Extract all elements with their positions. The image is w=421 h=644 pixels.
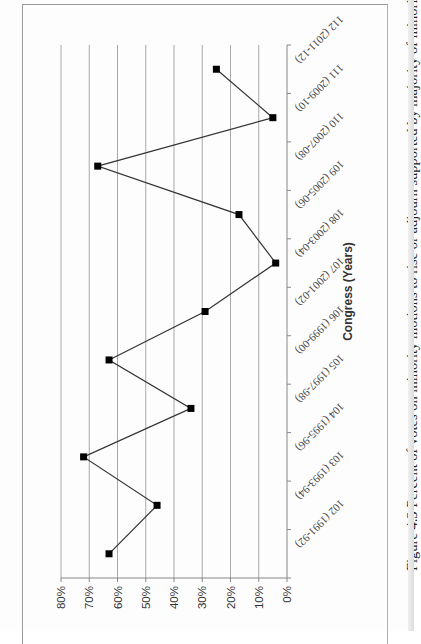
value-tick-label: 40% (168, 586, 180, 609)
data-point-marker (187, 405, 194, 412)
category-label: 111 (2009-10) (293, 61, 347, 115)
category-label: 106 (1999-00) (293, 303, 347, 357)
value-tick-label: 70% (83, 586, 95, 609)
value-tick-label: 10% (253, 586, 265, 609)
data-point-marker (154, 502, 161, 509)
data-point-marker (80, 453, 87, 460)
value-tick-label: 80% (55, 586, 67, 609)
value-tick-label: 60% (112, 586, 124, 609)
category-label: 102 (1991-92) (293, 497, 347, 551)
page-edge-shadow (408, 0, 414, 631)
data-point-marker (213, 66, 220, 73)
value-tick-label: 0% (281, 586, 293, 603)
data-point-marker (235, 211, 242, 218)
value-tick-label: 30% (196, 586, 208, 609)
category-label: 108 (2003-04) (293, 206, 347, 260)
category-label: 107 (2001-02) (293, 255, 347, 309)
category-label: 109 (2005-06) (293, 158, 347, 212)
category-axis-title: Congress (Years) (341, 242, 355, 341)
series-line (84, 69, 276, 554)
category-label: 105 (1997-98) (293, 352, 347, 406)
data-point-marker (106, 550, 113, 557)
category-label: 103 (1993-94) (293, 448, 347, 502)
category-label: 110 (2007-08) (293, 110, 347, 164)
data-point-marker (269, 114, 276, 121)
data-point-marker (106, 356, 113, 363)
category-label: 112 (2011-12) (293, 13, 347, 67)
data-point-marker (94, 163, 101, 170)
value-tick-label: 20% (225, 586, 237, 609)
category-label: 104 (1995-96) (293, 400, 347, 454)
data-point-marker (202, 308, 209, 315)
data-point-marker (272, 260, 279, 267)
value-tick-label: 50% (140, 586, 152, 609)
